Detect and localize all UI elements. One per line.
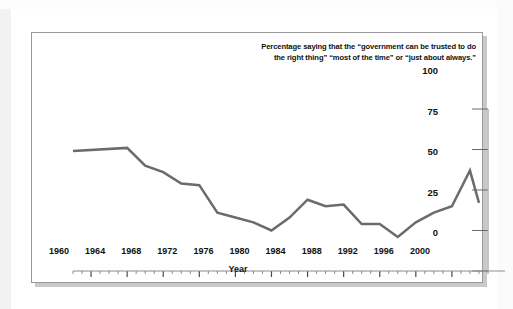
- x-axis-tick-label: 1984: [259, 246, 293, 256]
- chart-svg: [63, 65, 513, 309]
- y-axis-tick-label: 100: [416, 65, 438, 76]
- chart-title: Percentage saying that the “government c…: [228, 42, 476, 63]
- y-axis-tick-label: 0: [416, 227, 438, 238]
- chart-title-line-2: the right thing” “most of the time” or “…: [228, 53, 476, 64]
- plot-area: [63, 65, 513, 309]
- chart-title-line-1: Percentage saying that the “government c…: [228, 42, 476, 53]
- x-axis-tick-label: 1964: [78, 246, 112, 256]
- x-axis-tick-label: 1976: [186, 246, 220, 256]
- page-edge-band-top: [0, 0, 513, 9]
- page-edge-band-left: [0, 0, 11, 309]
- x-axis-tick-label: 1988: [295, 246, 329, 256]
- y-axis-tick-label: 75: [416, 106, 438, 117]
- x-axis-title: Year: [208, 264, 268, 274]
- x-axis-tick-label: 1968: [114, 246, 148, 256]
- x-axis-tick-label: 1992: [331, 246, 365, 256]
- x-axis-tick-label: 1972: [150, 246, 184, 256]
- y-axis-tick-label: 50: [416, 146, 438, 157]
- x-axis-tick-label: 1960: [42, 246, 76, 256]
- x-axis-tick-label: 1996: [367, 246, 401, 256]
- x-axis-tick-label: 1980: [222, 246, 256, 256]
- y-axis-tick-label: 25: [416, 187, 438, 198]
- x-axis-tick-label: 2000: [403, 246, 437, 256]
